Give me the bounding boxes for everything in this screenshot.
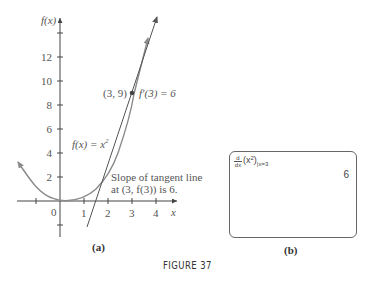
x-axis xyxy=(17,198,177,204)
derivative-label: f′(3) = 6 xyxy=(139,88,176,99)
function-label: f(x) = x2 xyxy=(72,138,109,150)
caption-a: (a) xyxy=(92,241,105,253)
function-label-exponent: 2 xyxy=(105,137,109,145)
calculator-result: 6 xyxy=(343,169,349,180)
tangent-line xyxy=(87,17,157,227)
y-tick-8: 8 xyxy=(30,100,52,111)
figure-title: FIGURE 37 xyxy=(163,260,212,271)
x-tick-2: 2 xyxy=(105,208,111,219)
y-axis-label: f(x) xyxy=(41,15,56,26)
derivative-operator: d dx xyxy=(234,155,242,168)
x-tick-3: 3 xyxy=(129,208,135,219)
y-tick-6: 6 xyxy=(30,124,52,135)
caption-b: (b) xyxy=(284,244,297,256)
calc-expr-base: (x xyxy=(243,155,251,165)
y-tick-4: 4 xyxy=(30,148,52,159)
calc-evaluation-subscript: |x=3 xyxy=(257,161,268,167)
tangent-point-marker xyxy=(130,91,135,96)
function-label-text: f(x) = x xyxy=(72,138,105,150)
y-axis xyxy=(57,18,63,237)
x-tick-4: 4 xyxy=(153,208,159,219)
calculator-expression: d dx (x2) |x=3 xyxy=(234,155,268,168)
slope-note-line-2: at (3, f(3)) is 6. xyxy=(111,184,178,195)
x-axis-label: x xyxy=(171,207,176,218)
derivative-denominator: dx xyxy=(235,162,241,168)
y-tick-10: 10 xyxy=(30,76,52,87)
slope-note-line-1: Slope of tangent line xyxy=(111,172,202,183)
x-tick-0: 0 xyxy=(51,207,57,218)
calculator-screen: d dx (x2) |x=3 6 xyxy=(229,151,357,238)
y-tick-2: 2 xyxy=(30,172,52,183)
x-tick-1: 1 xyxy=(81,208,87,219)
point-label: (3, 9) xyxy=(103,88,127,99)
figure-panel-a: f(x) 12 10 8 6 4 2 0 1 2 3 4 x (3, 9) f′… xyxy=(0,0,210,250)
y-tick-12: 12 xyxy=(30,52,52,63)
